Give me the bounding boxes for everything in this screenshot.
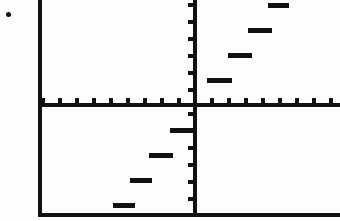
y-axis-tick	[188, 146, 193, 150]
x-axis-tick	[41, 98, 45, 103]
x-axis-tick	[75, 98, 79, 103]
y-axis	[193, 0, 197, 213]
step-segment	[149, 153, 173, 158]
x-axis-tick	[143, 98, 147, 103]
x-axis-tick	[210, 98, 214, 103]
x-axis	[38, 103, 340, 107]
step-segment	[113, 203, 135, 208]
x-axis-tick	[295, 98, 299, 103]
x-axis-tick	[244, 98, 248, 103]
x-axis-tick	[278, 98, 282, 103]
step-segment	[248, 28, 272, 33]
y-axis-tick	[188, 37, 193, 41]
y-axis-tick	[188, 54, 193, 58]
x-axis-tick	[92, 98, 96, 103]
x-axis-tick	[109, 98, 113, 103]
x-axis-tick	[160, 98, 164, 103]
x-axis-tick	[329, 98, 333, 103]
step-segment	[268, 3, 289, 8]
x-axis-tick	[126, 98, 130, 103]
calculator-screen	[0, 0, 340, 221]
y-axis-tick	[188, 88, 193, 92]
x-axis-tick	[177, 98, 181, 103]
y-axis-tick	[188, 197, 193, 201]
y-axis-tick	[188, 180, 193, 184]
y-axis-tick	[188, 20, 193, 24]
x-axis-tick	[261, 98, 265, 103]
y-axis-tick	[188, 163, 193, 167]
x-axis-tick	[58, 98, 62, 103]
y-axis-tick	[188, 112, 193, 116]
step-segment	[228, 53, 252, 58]
step-segment	[130, 178, 152, 183]
y-axis-tick	[188, 71, 193, 75]
step-segment	[170, 128, 195, 133]
graph-plot-area	[0, 0, 340, 221]
y-axis-tick	[188, 3, 193, 7]
x-axis-tick	[312, 98, 316, 103]
x-axis-tick	[227, 98, 231, 103]
step-segment	[207, 78, 232, 83]
